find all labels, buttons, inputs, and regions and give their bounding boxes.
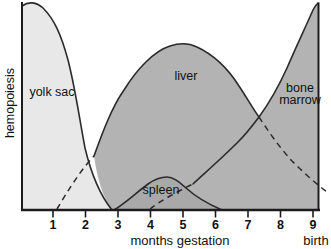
tick-label-4: 4 [147, 218, 154, 232]
liver-label: liver [175, 69, 198, 83]
x-axis-ticks [53, 211, 313, 218]
tick-label-2: 2 [82, 218, 89, 232]
birth-label: birth [303, 233, 328, 248]
tick-label-8: 8 [277, 218, 284, 232]
bone-marrow-label-line2: marrow [279, 93, 322, 107]
hemopoiesis-chart: 1 2 3 4 5 6 7 8 9 hemopoiesis months ges… [0, 0, 331, 249]
spleen-label: spleen [143, 183, 180, 197]
tick-label-3: 3 [115, 218, 122, 232]
y-axis-label: hemopoiesis [3, 68, 17, 138]
tick-label-1: 1 [50, 218, 57, 232]
x-axis-label: months gestation [130, 233, 229, 248]
x-axis-tick-labels: 1 2 3 4 5 6 7 8 9 [50, 218, 317, 232]
yolk-sac-label: yolk sac [29, 85, 74, 99]
tick-label-7: 7 [245, 218, 252, 232]
tick-label-9: 9 [310, 218, 317, 232]
tick-label-5: 5 [180, 218, 187, 232]
tick-label-6: 6 [212, 218, 219, 232]
